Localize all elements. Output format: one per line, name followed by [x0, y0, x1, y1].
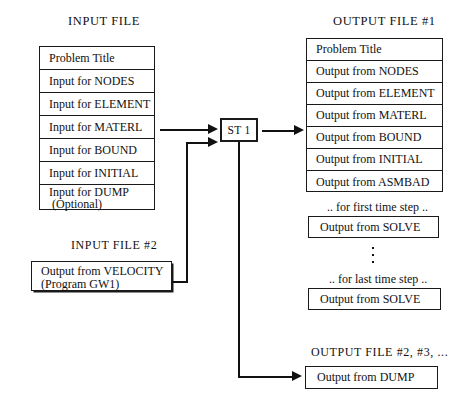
input-row-label: Input for NODES: [49, 75, 154, 88]
connector-velocity-horizontal: [172, 281, 188, 283]
process-box-st1: ST 1: [220, 118, 258, 142]
output-row-label: Output from ASMBAD: [316, 176, 442, 189]
arrowhead-elbow-to-st1: [208, 137, 218, 147]
input-row-label: Input for MATERL: [49, 121, 154, 134]
note-last-time-step: .. for last time step ..: [329, 272, 427, 287]
arrowhead-st1-to-output1: [294, 125, 304, 135]
output-row-materl: Output from MATERL: [307, 105, 442, 127]
output-row-problem-title: Problem Title: [307, 39, 442, 61]
diagram-canvas: INPUT FILE Problem Title Input for NODES…: [0, 0, 473, 410]
dump-box: Output from DUMP: [305, 366, 438, 389]
input-file2-velocity-box: Output from VELOCITY (Program GW1): [31, 261, 172, 291]
output-row-label: Output from ELEMENT: [316, 87, 442, 100]
connector-input-to-st1: [160, 129, 211, 131]
velocity-box-label: Output from VELOCITY: [41, 265, 163, 278]
connector-st1-to-dump-horizontal: [238, 376, 294, 378]
output-row-initial: Output from INITIAL: [307, 149, 442, 171]
input-row-sublabel: (Optional): [49, 198, 154, 211]
output-row-label: Output from NODES: [316, 65, 442, 78]
input-row-label: Input for ELEMENT: [49, 98, 154, 111]
output-row-nodes: Output from NODES: [307, 61, 442, 83]
output-row-label: Output from BOUND: [316, 131, 442, 144]
velocity-box-sublabel: (Program GW1): [41, 278, 119, 291]
solve-box-last: Output from SOLVE: [308, 288, 441, 310]
input-row-label: Problem Title: [49, 52, 154, 65]
input-row-nodes: Input for NODES: [40, 70, 154, 93]
input-row-problem-title: Problem Title: [40, 47, 154, 70]
input-file-title: INPUT FILE: [68, 14, 140, 29]
output-row-bound: Output from BOUND: [307, 127, 442, 149]
input-row-label: Input for INITIAL: [49, 167, 154, 180]
output-file-rest-title: OUTPUT FILE #2, #3, ...: [311, 345, 448, 360]
input-row-initial: Input for INITIAL: [40, 162, 154, 185]
ellipsis-dot: [372, 254, 374, 256]
solve-box-first: Output from SOLVE: [308, 216, 439, 238]
input-file-stack: Problem Title Input for NODES Input for …: [39, 46, 155, 210]
vertical-ellipsis: [372, 247, 374, 263]
output-row-label: Output from MATERL: [316, 109, 442, 122]
input-file2-title: INPUT FILE #2: [71, 238, 157, 253]
output-row-element: Output from ELEMENT: [307, 83, 442, 105]
note-first-time-step: .. for first time step ..: [327, 200, 428, 215]
connector-velocity-vertical: [186, 142, 188, 282]
input-row-bound: Input for BOUND: [40, 139, 154, 162]
connector-st1-down-vertical: [238, 142, 240, 376]
output-file1-stack: Problem Title Output from NODES Output f…: [306, 38, 443, 192]
output-row-asmbad: Output from ASMBAD: [307, 171, 442, 193]
connector-st1-to-output1: [262, 130, 296, 132]
output-row-label: Problem Title: [316, 43, 442, 56]
input-row-dump: Input for DUMP (Optional): [40, 185, 154, 211]
arrowhead-to-dump: [292, 371, 302, 381]
input-row-element: Input for ELEMENT: [40, 93, 154, 116]
output-file1-title: OUTPUT FILE #1: [333, 14, 436, 29]
ellipsis-dot: [372, 247, 374, 249]
ellipsis-dot: [372, 261, 374, 263]
output-row-label: Output from INITIAL: [316, 153, 442, 166]
input-row-materl: Input for MATERL: [40, 116, 154, 139]
arrowhead-input-to-st1: [208, 124, 218, 134]
input-row-label: Input for BOUND: [49, 144, 154, 157]
